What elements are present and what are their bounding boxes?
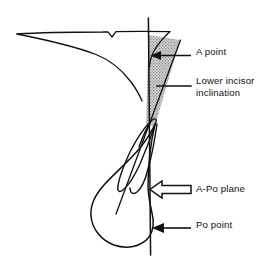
- annotation-label-lower-incisor-inclination: Lower incisor inclination: [196, 75, 254, 98]
- cephalometric-diagram: A point Lower incisor inclination A-Po p…: [0, 0, 266, 270]
- annotation-label-a-po-plane: A-Po plane: [196, 183, 245, 195]
- mandible-symphysis: [91, 124, 155, 247]
- apo-plane-arrow: [150, 181, 191, 198]
- shaded-wedge: [146, 35, 180, 126]
- po-point-arrow: [152, 223, 191, 233]
- annotation-label-po-point: Po point: [196, 219, 232, 231]
- annotation-label-a-point: A point: [196, 46, 226, 58]
